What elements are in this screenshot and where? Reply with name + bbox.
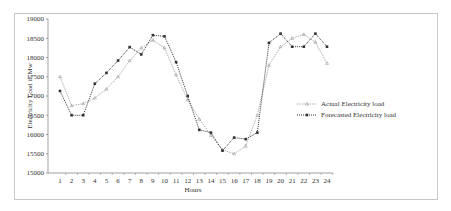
series-forecast <box>59 32 329 152</box>
x-tick-label: 6 <box>116 177 120 185</box>
legend-label: Actual Electricity load <box>321 100 385 108</box>
data-point-marker <box>105 72 108 75</box>
y-tick-label: 18500 <box>27 35 45 43</box>
x-tick-label: 1 <box>58 177 62 185</box>
data-point-marker <box>244 138 247 141</box>
data-point-marker <box>210 131 213 134</box>
data-point-marker <box>82 114 85 117</box>
x-tick-label: 7 <box>128 177 132 185</box>
x-tick-label: 24 <box>324 177 332 185</box>
x-tick-label: 8 <box>140 177 144 185</box>
x-tick-label: 20 <box>277 177 285 185</box>
y-axis-title: Electricity Load in Mw <box>26 62 34 128</box>
x-tick-label: 13 <box>196 177 204 185</box>
x-tick-label: 18 <box>254 177 262 185</box>
x-tick-label: 2 <box>70 177 74 185</box>
legend-label: Forecasted Electricity load <box>321 111 397 119</box>
data-point-marker <box>302 45 305 48</box>
x-tick-label: 12 <box>184 177 192 185</box>
data-point-marker <box>221 149 224 152</box>
legend-marker <box>306 114 309 117</box>
data-point-marker <box>314 32 317 35</box>
y-tick-label: 16000 <box>27 131 45 139</box>
y-tick-label: 15000 <box>27 169 45 177</box>
data-point-marker <box>291 37 294 40</box>
x-tick-label: 9 <box>151 177 155 185</box>
data-point-marker <box>140 46 143 49</box>
chart-legend: Actual Electricity loadForecasted Electr… <box>297 100 397 119</box>
data-point-marker <box>117 59 120 62</box>
series-actual <box>59 33 329 155</box>
data-point-marker <box>268 42 271 45</box>
data-point-marker <box>326 45 329 48</box>
x-axis: 123456789101112131415161718192021222324 <box>48 173 333 185</box>
data-point-marker <box>186 95 189 98</box>
data-point-marker <box>198 129 201 132</box>
data-point-marker <box>70 114 73 117</box>
data-point-marker <box>291 45 294 48</box>
x-tick-label: 14 <box>207 177 215 185</box>
data-point-marker <box>233 136 236 139</box>
x-tick-label: 10 <box>161 177 169 185</box>
x-tick-label: 22 <box>300 177 308 185</box>
x-axis-title: Hours <box>184 186 201 194</box>
data-point-marker <box>302 33 305 36</box>
legend-item: Forecasted Electricity load <box>297 111 397 119</box>
data-point-marker <box>256 131 259 134</box>
x-tick-label: 5 <box>105 177 109 185</box>
data-point-marker <box>94 82 97 85</box>
x-tick-label: 23 <box>312 177 320 185</box>
y-tick-label: 15500 <box>27 150 45 158</box>
line-chart: 1500015500160001650017000175001800018500… <box>0 0 451 211</box>
data-point-marker <box>279 32 282 35</box>
data-point-marker <box>128 46 131 49</box>
x-tick-label: 21 <box>289 177 297 185</box>
x-tick-label: 16 <box>231 177 239 185</box>
data-point-marker <box>59 90 62 93</box>
data-point-marker <box>152 34 155 37</box>
x-tick-label: 3 <box>81 177 85 185</box>
data-point-marker <box>163 35 166 38</box>
x-tick-label: 17 <box>242 177 250 185</box>
y-tick-label: 19000 <box>27 15 45 23</box>
x-tick-label: 15 <box>219 177 227 185</box>
data-point-marker <box>175 61 178 64</box>
x-tick-label: 19 <box>265 177 273 185</box>
data-point-marker <box>244 144 247 147</box>
x-tick-label: 11 <box>173 177 180 185</box>
data-point-marker <box>140 53 143 56</box>
chart-series <box>59 32 329 155</box>
x-tick-label: 4 <box>93 177 97 185</box>
y-tick-label: 18000 <box>27 54 45 62</box>
legend-item: Actual Electricity load <box>297 100 385 108</box>
